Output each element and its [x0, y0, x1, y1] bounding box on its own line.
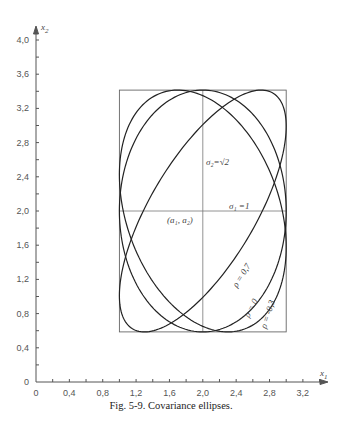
y-tick-label: 1,2	[16, 274, 29, 284]
axis-labels: x2 x1	[40, 22, 328, 381]
x-tick-label: 2,0	[197, 388, 210, 398]
y-tick-label: 2,8	[16, 138, 29, 148]
sigma1-label: σ₁ =1	[229, 201, 249, 211]
x-tick-label: 2,8	[263, 388, 276, 398]
rho-0-label: ρ = 0	[241, 297, 260, 320]
y-tick-label: 0,4	[16, 343, 29, 353]
y-tick-label: 0	[24, 377, 29, 387]
covariance-ellipse-chart: 00,40,81,21,62,02,42,83,200,40,81,21,62,…	[0, 0, 342, 436]
y-axis-label: x2	[40, 22, 49, 35]
annotations: σ₂=√2 σ₁ =1 (a₁, a₂) ρ = 0,7 ρ = 0 ρ = -…	[167, 157, 277, 331]
y-tick-label: 0,8	[16, 309, 29, 319]
axes	[34, 26, 329, 385]
center-label: (a₁, a₂)	[167, 215, 193, 225]
x-tick-label: 0	[33, 388, 38, 398]
x-tick-label: 3,2	[297, 388, 310, 398]
y-tick-label: 2,0	[16, 206, 29, 216]
tick-labels: 00,40,81,21,62,02,42,83,200,40,81,21,62,…	[16, 35, 309, 398]
rho-0.7-label: ρ = 0,7	[230, 261, 253, 290]
figure-caption: Fig. 5-9. Covariance ellipses.	[0, 400, 342, 411]
y-tick-label: 3,6	[16, 69, 29, 79]
y-axis-arrow-icon	[34, 26, 39, 34]
plot-area	[119, 90, 286, 332]
y-tick-label: 3,2	[16, 103, 29, 113]
x-tick-label: 0,8	[96, 388, 109, 398]
y-tick-label: 4,0	[16, 35, 29, 45]
x-axis-label: x1	[319, 368, 328, 381]
sigma2-label: σ₂=√2	[206, 157, 230, 167]
x-tick-label: 0,4	[63, 388, 76, 398]
x-tick-label: 1,2	[130, 388, 143, 398]
y-tick-label: 2,4	[16, 172, 29, 182]
x-tick-label: 1,6	[163, 388, 176, 398]
y-tick-label: 1,6	[16, 240, 29, 250]
x-tick-label: 2,4	[230, 388, 243, 398]
rho-minus-0.3-label: ρ = -0,3	[258, 298, 277, 330]
